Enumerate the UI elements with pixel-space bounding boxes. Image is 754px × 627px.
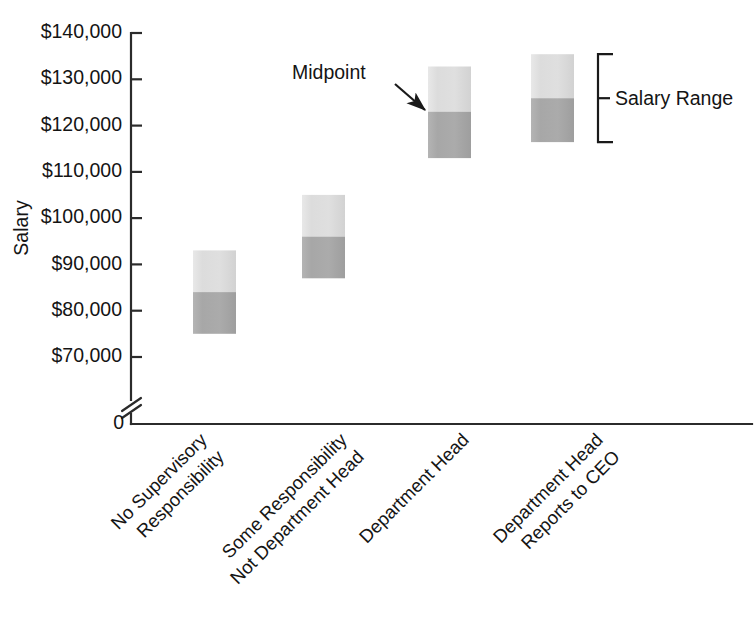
bar-some-responsibility-not-department-head[interactable] [302,195,345,278]
midpoint-annotation: Midpoint [292,61,425,110]
chart-canvas: $140,000 $130,000 $120,000 $110,000 $100… [0,0,754,627]
bar-upper-band-2 [302,195,345,237]
bar-lower-band-1 [193,292,236,334]
bar-department-head[interactable] [428,67,471,159]
x-axis-label-3: Department Head [355,429,473,547]
y-axis-zero-label: 0 [113,411,124,433]
y-tick-label-100000: $100,000 [41,205,122,227]
y-tick-label-70000: $70,000 [52,344,123,366]
bar-lower-band-3 [428,112,471,158]
x-axis-category-labels: No Supervisory Responsibility Some Respo… [107,428,624,588]
y-axis: $140,000 $130,000 $120,000 $110,000 $100… [10,20,142,433]
y-tick-label-90000: $90,000 [52,252,123,274]
salary-range-label: Salary Range [615,87,733,109]
bar-upper-band-1 [193,250,236,292]
bar-lower-band-2 [302,237,345,279]
x-axis-label-1: No Supervisory Responsibility [107,428,229,550]
bar-department-head-reports-to-ceo[interactable] [531,54,574,142]
bars-group [193,54,574,334]
y-tick-label-80000: $80,000 [52,298,123,320]
bar-upper-band-3 [428,67,471,112]
y-tick-label-110000: $110,000 [42,159,122,181]
y-tick-label-130000: $130,000 [41,66,122,88]
x-axis-label-2: Some Responsibility Not Department Head [209,428,369,588]
bar-no-supervisory-responsibility[interactable] [193,250,236,333]
midpoint-label: Midpoint [292,61,366,83]
x-axis-label-3-line-1: Department Head [355,429,473,547]
bar-upper-band-4 [531,54,574,98]
salary-range-chart: $140,000 $130,000 $120,000 $110,000 $100… [0,0,754,627]
y-tick-label-120000: $120,000 [41,113,122,135]
salary-range-annotation: Salary Range [598,54,733,142]
bar-lower-band-4 [531,98,574,142]
midpoint-arrow [395,84,425,110]
x-axis-label-4: Department Head Reports to CEO [489,429,624,564]
y-axis-title: Salary [10,200,32,256]
y-tick-label-140000: $140,000 [41,20,122,42]
